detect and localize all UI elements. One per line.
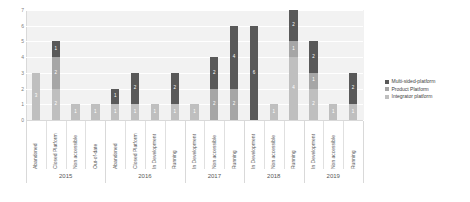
- bar-segment[interactable]: 1: [111, 89, 119, 105]
- bar-stack[interactable]: 21: [131, 10, 139, 120]
- x-axis-category-label: Running: [350, 150, 356, 169]
- bar-stack[interactable]: 1: [329, 10, 337, 120]
- legend-item[interactable]: Multi-sided-platform: [385, 79, 435, 84]
- bar-segment[interactable]: 1: [71, 104, 79, 120]
- x-axis-category-label: In Development: [310, 134, 316, 169]
- legend-swatch-icon: [385, 80, 389, 84]
- category-separator: [85, 121, 86, 169]
- y-axis-tick-label: 4: [4, 55, 24, 60]
- category-separator: [145, 121, 146, 169]
- year-group-separator: [26, 121, 27, 183]
- year-group-separator: [363, 121, 364, 183]
- y-axis-tick-label: 6: [4, 23, 24, 28]
- bar-segment[interactable]: 1: [171, 104, 179, 120]
- x-axis-year-label: 2016: [105, 172, 184, 180]
- legend-swatch-icon: [385, 87, 389, 91]
- bar-stack[interactable]: 42: [230, 10, 238, 120]
- bar-segment[interactable]: 2: [171, 73, 179, 104]
- bar-segment[interactable]: 2: [52, 89, 60, 120]
- bar-segment[interactable]: 2: [131, 73, 139, 104]
- bar-segment[interactable]: 2: [289, 10, 297, 41]
- legend-label: Integrator platform: [392, 94, 433, 99]
- category-separator: [125, 121, 126, 169]
- y-axis-tick-label: 0: [4, 118, 24, 123]
- year-group-separator: [244, 121, 245, 183]
- bar-stack[interactable]: 11: [111, 10, 119, 120]
- x-axis-category-label: Non accessible: [270, 135, 276, 169]
- chart-legend: Multi-sided-platformProduct PlatformInte…: [385, 79, 435, 102]
- x-axis-year-label: 2018: [244, 172, 303, 180]
- y-axis-tick-label: 1: [4, 102, 24, 107]
- x-axis-category-label: In Development: [151, 134, 157, 169]
- bar-segment[interactable]: 2: [230, 89, 238, 120]
- x-axis-category-label: In Development: [250, 134, 256, 169]
- x-axis-category-label: In Development: [191, 134, 197, 169]
- category-separator: [204, 121, 205, 169]
- bar-segment[interactable]: 1: [289, 41, 297, 57]
- bar-segment[interactable]: 1: [270, 104, 278, 120]
- bar-stack[interactable]: 212: [309, 10, 317, 120]
- x-axis-category-label: Closed Platform: [132, 133, 138, 169]
- bar-segment[interactable]: 1: [349, 104, 357, 120]
- bar-segment[interactable]: 2: [309, 41, 317, 72]
- chart-container: 01234567 31221111211211224261214212121 A…: [0, 0, 470, 202]
- bar-stack[interactable]: 214: [289, 10, 297, 120]
- legend-swatch-icon: [385, 95, 389, 99]
- y-axis-tick-label: 2: [4, 86, 24, 91]
- y-axis: 01234567: [2, 10, 24, 120]
- bar-stack[interactable]: 3: [32, 10, 40, 120]
- legend-label: Multi-sided-platform: [392, 79, 436, 84]
- x-axis-category-label: Abandoned: [112, 143, 118, 169]
- bar-segment[interactable]: 1: [131, 104, 139, 120]
- bar-stack[interactable]: 22: [210, 10, 218, 120]
- bar-stack[interactable]: 21: [171, 10, 179, 120]
- y-axis-tick-label: 3: [4, 70, 24, 75]
- bar-segment[interactable]: 2: [349, 73, 357, 104]
- x-axis-category-label: Non accessible: [211, 135, 217, 169]
- legend-label: Product Platform: [392, 87, 429, 92]
- y-axis-tick-label: 7: [4, 8, 24, 13]
- x-axis-category-label: Running: [290, 150, 296, 169]
- bar-stack[interactable]: 1: [71, 10, 79, 120]
- bar-segment[interactable]: 1: [309, 73, 317, 89]
- x-axis-category-label: Abandoned: [32, 143, 38, 169]
- x-axis-category-labels: AbandonedClosed PlatformNon accessibleOu…: [26, 121, 363, 169]
- bar-stack[interactable]: 21: [349, 10, 357, 120]
- category-separator: [224, 121, 225, 169]
- bar-stack[interactable]: 1: [270, 10, 278, 120]
- bar-segment[interactable]: 1: [52, 41, 60, 57]
- x-axis-year-label: 2017: [185, 172, 244, 180]
- category-separator: [343, 121, 344, 169]
- legend-item[interactable]: Integrator platform: [385, 94, 435, 99]
- bar-stack[interactable]: 6: [250, 10, 258, 120]
- category-separator: [66, 121, 67, 169]
- bar-segment[interactable]: 4: [230, 26, 238, 89]
- category-separator: [264, 121, 265, 169]
- year-group-separator: [105, 121, 106, 183]
- x-axis-year-label: 2019: [304, 172, 363, 180]
- x-axis-category-label: Non accessible: [72, 135, 78, 169]
- bar-segment[interactable]: 2: [210, 89, 218, 120]
- bar-stack[interactable]: 122: [52, 10, 60, 120]
- x-axis-year-labels: 20152016201720182019: [26, 170, 363, 184]
- category-separator: [284, 121, 285, 169]
- bar-segment[interactable]: 2: [52, 57, 60, 88]
- legend-item[interactable]: Product Platform: [385, 87, 435, 92]
- bar-segment[interactable]: 3: [32, 73, 40, 120]
- bar-stack[interactable]: 1: [91, 10, 99, 120]
- bar-stack[interactable]: 1: [190, 10, 198, 120]
- bar-segment[interactable]: 2: [210, 57, 218, 88]
- bar-segment[interactable]: 6: [250, 26, 258, 120]
- y-axis-tick-label: 5: [4, 39, 24, 44]
- bar-segment[interactable]: 1: [111, 104, 119, 120]
- bar-segment[interactable]: 2: [309, 89, 317, 120]
- bar-segment[interactable]: 4: [289, 57, 297, 120]
- bar-segment[interactable]: 1: [151, 104, 159, 120]
- category-separator: [165, 121, 166, 169]
- bar-segment[interactable]: 1: [190, 104, 198, 120]
- bar-segment[interactable]: 1: [329, 104, 337, 120]
- bar-stack[interactable]: 1: [151, 10, 159, 120]
- x-axis-category-label: Running: [231, 150, 237, 169]
- x-axis-category-label: Non accessible: [330, 135, 336, 169]
- bar-segment[interactable]: 1: [91, 104, 99, 120]
